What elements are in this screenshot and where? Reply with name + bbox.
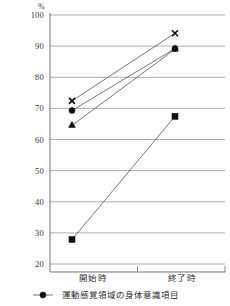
marker-square-end — [172, 113, 178, 119]
series-x-line — [72, 33, 175, 101]
marker-square-start — [69, 237, 75, 243]
series-triangle-markers — [69, 45, 179, 127]
y-tick-label-70: 70 — [35, 103, 44, 113]
legend-circle-marker-icon — [40, 292, 46, 298]
series-lines — [72, 33, 175, 239]
legend-label-kinesthetic: 運動感覚領域の身体意識項目 — [62, 290, 179, 300]
y-tick-label-60: 60 — [35, 135, 44, 145]
chart-legend: 運動感覚領域の身体意識項目 — [33, 290, 179, 300]
x-tick-label-end: 終了時 — [168, 273, 196, 283]
y-tick-label-90: 90 — [35, 41, 44, 51]
marker-circle-start — [69, 108, 75, 114]
y-tick-label-40: 40 — [35, 197, 44, 207]
y-axis-tick-labels: 100 90 80 70 60 50 40 30 20 — [31, 10, 44, 269]
line-chart: % 100 90 80 70 60 50 40 30 20 — [0, 0, 230, 306]
x-tick-label-start: 開始時 — [79, 273, 107, 283]
marker-x-end — [172, 30, 178, 36]
series-square-line — [72, 116, 175, 239]
marker-triangle-start — [69, 121, 76, 127]
series-circle-line — [72, 49, 175, 111]
y-tick-label-20: 20 — [35, 259, 44, 269]
y-tick-label-100: 100 — [31, 10, 44, 20]
y-tick-label-50: 50 — [35, 166, 44, 176]
y-tick-label-30: 30 — [35, 228, 44, 238]
series-triangle-line — [72, 49, 175, 125]
y-tick-label-80: 80 — [35, 72, 44, 82]
marker-circle-end — [172, 46, 178, 52]
y-gridlines — [50, 15, 225, 264]
chart-container: % 100 90 80 70 60 50 40 30 20 — [0, 0, 230, 306]
marker-x-start — [69, 98, 75, 104]
